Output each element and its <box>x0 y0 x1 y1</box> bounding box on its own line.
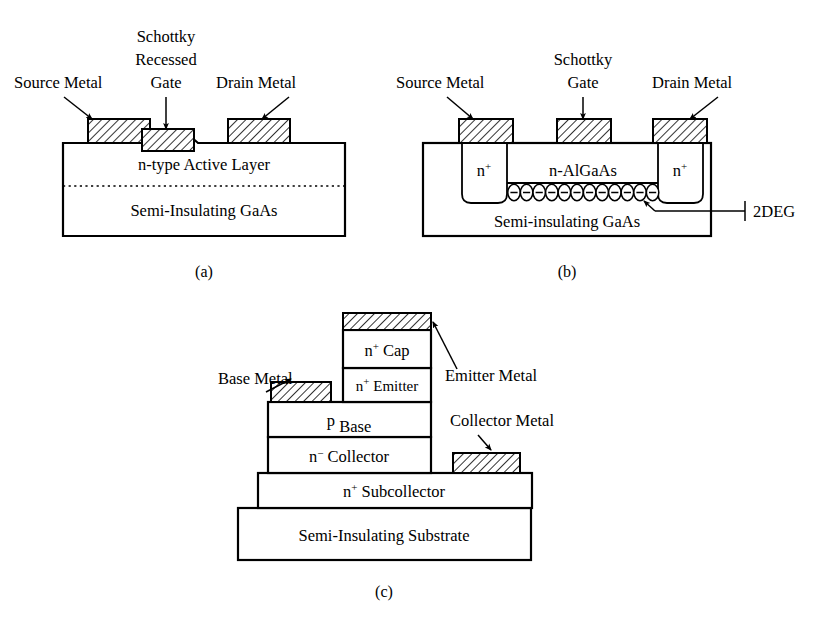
panel-c: n+ Cap n+ Emitter p Base n− Collector n+… <box>218 313 554 601</box>
panel-c-layer-label-subcollector: n+ Subcollector <box>343 481 445 501</box>
panel-c-emitter-metal-arrow <box>433 322 457 369</box>
2deg-electron <box>609 184 621 200</box>
2deg-electron <box>571 184 583 200</box>
device-cross-sections-figure: Source Metal Schottky Recessed Gate Drai… <box>0 0 821 618</box>
2deg-electron <box>596 184 608 200</box>
panel-a-drain-arrow <box>262 97 289 119</box>
panel-a-gate-label-line1: Schottky <box>137 27 196 46</box>
panel-c-collector-metal-arrow <box>478 435 491 450</box>
panel-a-source-metal <box>88 119 150 143</box>
2deg-electron <box>508 184 520 200</box>
panel-b-gate-metal <box>557 119 611 143</box>
2deg-electron <box>546 184 558 200</box>
panel-c-emitter-metal <box>343 313 431 330</box>
panel-b-gate-label-line1: Schottky <box>554 50 613 69</box>
panel-b-drain-arrow <box>690 97 718 119</box>
panel-b-drain-metal <box>653 119 707 143</box>
figure-root: Source Metal Schottky Recessed Gate Drai… <box>0 0 821 618</box>
panel-a-layer-label-active: n-type Active Layer <box>138 155 270 174</box>
panel-c-layer-label-substrate: Semi-Insulating Substrate <box>299 526 470 545</box>
2deg-electron <box>583 184 595 200</box>
2deg-electron <box>533 184 545 200</box>
panel-c-collector-metal <box>453 453 520 473</box>
panel-b: Source Metal Schottky Gate Drain Metal <box>396 50 795 281</box>
panel-c-collector-metal-label: Collector Metal <box>450 411 554 430</box>
2deg-electron <box>520 184 532 200</box>
panel-a-drain-metal <box>228 119 290 143</box>
panel-a-gate-label-line3: Gate <box>150 73 181 92</box>
panel-a-drain-label: Drain Metal <box>216 73 297 92</box>
2deg-electron <box>646 184 658 200</box>
panel-b-source-label: Source Metal <box>396 73 485 92</box>
panel-a-gate-label-line2: Recessed <box>135 50 197 69</box>
panel-b-2deg-label: 2DEG <box>753 202 795 221</box>
panel-c-emitter-metal-label: Emitter Metal <box>445 366 538 385</box>
2deg-electron <box>634 184 646 200</box>
2deg-electron <box>558 184 570 200</box>
panel-a-source-label: Source Metal <box>14 73 103 92</box>
panel-a-gate-metal <box>142 129 194 151</box>
panel-b-substrate-label: Semi-insulating GaAs <box>494 212 640 231</box>
panel-b-source-metal <box>459 119 513 143</box>
panel-c-base-metal-label: Base Metal <box>218 369 293 388</box>
panel-b-gate-label-line2: Gate <box>567 73 598 92</box>
panel-a: Source Metal Schottky Recessed Gate Drai… <box>14 27 345 281</box>
panel-c-layer-label-cap: n+ Cap <box>364 340 409 360</box>
panel-b-drain-label: Drain Metal <box>652 73 733 92</box>
panel-a-layer-label-substrate: Semi-Insulating GaAs <box>130 201 277 220</box>
panel-b-barrier-label: n-AlGaAs <box>549 161 617 180</box>
panel-c-caption: (c) <box>375 583 393 601</box>
panel-a-source-arrow <box>64 97 92 119</box>
panel-b-caption: (b) <box>558 263 577 281</box>
panel-b-source-arrow <box>447 97 473 119</box>
panel-a-caption: (a) <box>195 263 213 281</box>
2deg-electron <box>621 184 633 200</box>
